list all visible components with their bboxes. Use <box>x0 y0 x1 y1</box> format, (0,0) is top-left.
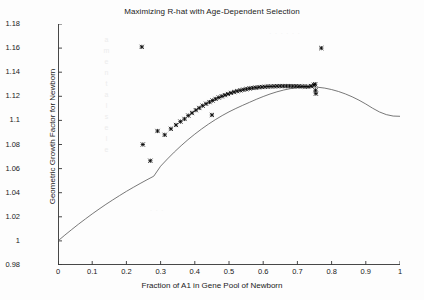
y-tick-label: 1.16 <box>0 44 20 52</box>
x-tick-label: 0.1 <box>77 268 107 276</box>
x-tick-label: 0.5 <box>214 268 244 276</box>
y-tick-label: 1.02 <box>0 213 20 221</box>
y-tick-label: 1.18 <box>0 20 20 28</box>
x-tick-label: 0 <box>43 268 73 276</box>
data-point-marker <box>169 127 173 131</box>
data-point-marker <box>197 106 201 110</box>
data-point-marker <box>232 90 236 94</box>
x-tick-label: 0.4 <box>180 268 210 276</box>
x-tick-label: 0.2 <box>111 268 141 276</box>
data-layer <box>58 24 400 265</box>
y-tick-label: 1.06 <box>0 165 20 173</box>
x-tick-label: 0.9 <box>351 268 381 276</box>
data-point-marker <box>319 46 323 50</box>
x-tick-label: 0.3 <box>146 268 176 276</box>
y-tick-label: 0.98 <box>0 261 20 269</box>
x-tick-label: 0.6 <box>248 268 278 276</box>
data-point-marker <box>163 133 167 137</box>
scatter-points <box>140 45 324 163</box>
data-point-marker <box>229 91 233 95</box>
data-point-marker <box>148 159 152 163</box>
plot-area <box>58 24 400 265</box>
data-point-marker <box>190 111 194 115</box>
curve-line <box>58 87 400 241</box>
chart-figure: amentalsele · · · · · · · · · Maximizing… <box>0 0 424 300</box>
y-tick-label: 1.04 <box>0 189 20 197</box>
data-point-marker <box>235 89 239 93</box>
data-point-marker <box>178 120 182 124</box>
x-tick-label: 0.8 <box>317 268 347 276</box>
data-point-marker <box>210 113 214 117</box>
y-axis-label: Geometric Growth Factor for Newborn <box>48 0 57 287</box>
y-tick-label: 1.14 <box>0 68 20 76</box>
data-point-marker <box>141 142 145 146</box>
data-point-marker <box>140 45 144 49</box>
y-tick-label: 1 <box>0 237 20 245</box>
data-point-marker <box>313 82 317 86</box>
y-tick-label: 1.1 <box>0 116 20 124</box>
x-tick-label: 1 <box>385 268 415 276</box>
y-tick-label: 1.08 <box>0 141 20 149</box>
data-point-marker <box>314 92 318 96</box>
data-point-marker <box>238 88 242 92</box>
y-tick-label: 1.12 <box>0 92 20 100</box>
chart-title: Maximizing R-hat with Age-Dependent Sele… <box>0 7 424 16</box>
data-point-marker <box>186 113 190 117</box>
data-point-marker <box>155 129 159 133</box>
data-point-marker <box>174 123 178 127</box>
x-axis-label: Fraction of A1 in Gene Pool of Newborn <box>0 281 424 290</box>
x-tick-label: 0.7 <box>282 268 312 276</box>
